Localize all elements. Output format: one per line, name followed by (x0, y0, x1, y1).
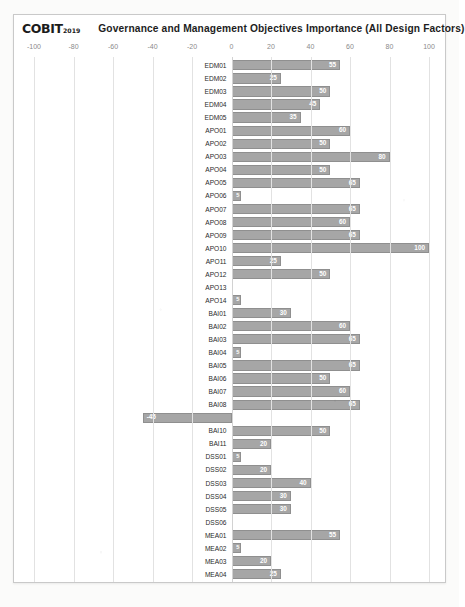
gridline (311, 57, 312, 582)
bar-category-label: EDM02 (14, 72, 232, 85)
bar: 25 (232, 73, 281, 83)
bar: 20 (232, 556, 272, 566)
bar-value-label: 30 (280, 506, 290, 512)
bar-row: APO0965 (14, 229, 445, 242)
bar-category-label: BAI02 (14, 320, 232, 333)
bar-row: BAI0760 (14, 385, 445, 398)
bar-category-label: EDM03 (14, 85, 232, 98)
bar-category-label: APO05 (14, 176, 232, 189)
gridline (153, 57, 154, 582)
gridline (34, 57, 35, 582)
gridline (74, 57, 75, 582)
bar-value-label: 5 (235, 545, 240, 551)
bar-category-label: MEA02 (14, 542, 232, 555)
bar-category-label: BAI07 (14, 385, 232, 398)
gridline (350, 57, 351, 582)
bar-value-label: 60 (339, 388, 349, 394)
bar-category-label: APO08 (14, 216, 232, 229)
bar: 55 (232, 530, 341, 540)
bar-row: DSS0530 (14, 503, 445, 516)
bar: 20 (232, 439, 272, 449)
bar-row: BAI045 (14, 346, 445, 359)
x-tick-label: -60 (108, 43, 118, 50)
bar-value-label: 80 (378, 154, 388, 160)
bar-category-label: APO12 (14, 268, 232, 281)
x-tick-label: 0 (230, 43, 234, 50)
bar: 50 (232, 426, 331, 436)
bar-category-label: BAI03 (14, 333, 232, 346)
x-tick-label: -100 (27, 43, 41, 50)
bar-value-label: 50 (319, 428, 329, 434)
bar-category-label: DSS01 (14, 450, 232, 463)
bar-row: BAI1050 (14, 424, 445, 437)
bar: 60 (232, 321, 351, 331)
gridline (429, 57, 430, 582)
bar-value-label: 60 (339, 219, 349, 225)
bar: 65 (232, 334, 360, 344)
bar: 60 (232, 126, 351, 136)
bar: 60 (232, 386, 351, 396)
x-tick-label: -80 (68, 43, 78, 50)
bar-row: APO1125 (14, 255, 445, 268)
bar: 55 (232, 60, 341, 70)
bar-value-label: 20 (260, 558, 270, 564)
bar-row: APO0250 (14, 137, 445, 150)
bar-row: DSS0220 (14, 463, 445, 476)
bar-row: DSS060 (14, 516, 445, 529)
bar-category-label: MEA03 (14, 555, 232, 568)
bar-row: BAI1120 (14, 437, 445, 450)
chart-header: COBIT 2019 Governance and Management Obj… (14, 15, 445, 41)
bar-row: EDM0350 (14, 85, 445, 98)
bar-category-label: APO01 (14, 124, 232, 137)
bar: 5 (232, 452, 242, 462)
bar: 5 (232, 543, 242, 553)
bar-row: APO065 (14, 189, 445, 202)
bar-value-label: -45 (144, 414, 156, 420)
page-title: Governance and Management Objectives Imp… (98, 23, 464, 34)
bar-value-label: 50 (319, 88, 329, 94)
bar-row: EDM0535 (14, 111, 445, 124)
bar-category-label: DSS04 (14, 490, 232, 503)
bar: 65 (232, 360, 360, 370)
bar-row: BAI0565 (14, 359, 445, 372)
bar-value-label: 100 (414, 245, 428, 251)
bar-category-label: BAI11 (14, 437, 232, 450)
bar-row: MEA025 (14, 542, 445, 555)
cobit-logo: COBIT 2019 (22, 21, 80, 36)
bar-category-label: APO13 (14, 281, 232, 294)
x-tick-label: 40 (307, 43, 315, 50)
x-tick-label: -40 (147, 43, 157, 50)
bar-row: MEA0425 (14, 568, 445, 581)
bar-row: BAI09-45 (14, 411, 445, 424)
bar-value-label: 60 (339, 323, 349, 329)
bar: 50 (232, 269, 331, 279)
bar-value-label: 5 (235, 350, 240, 356)
bar-value-label: 30 (280, 493, 290, 499)
bar-category-label: APO09 (14, 229, 232, 242)
bar: 30 (232, 491, 291, 501)
bar-value-label: 5 (235, 193, 240, 199)
bar-category-label: APO07 (14, 203, 232, 216)
bar-category-label: APO06 (14, 189, 232, 202)
bar-value-label: 55 (329, 532, 339, 538)
bar-value-label: 50 (319, 375, 329, 381)
bar-value-label: 20 (260, 441, 270, 447)
bar-category-label: APO04 (14, 163, 232, 176)
bar-row: APO0380 (14, 150, 445, 163)
x-axis-tick-labels: -100-80-60-40-20020406080100 (14, 43, 445, 57)
bar-category-label: DSS05 (14, 503, 232, 516)
bar: 5 (232, 347, 242, 357)
cobit-logo-text: COBIT (22, 21, 63, 36)
bar-row: BAI0130 (14, 307, 445, 320)
bar-rows: EDM0155EDM0225EDM0350EDM0445EDM0535APO01… (14, 59, 445, 581)
bar-value-label: 50 (319, 271, 329, 277)
bar: 100 (232, 243, 430, 253)
bar-category-label: APO10 (14, 242, 232, 255)
plot-area: EDM0155EDM0225EDM0350EDM0445EDM0535APO01… (14, 57, 445, 582)
bar-row: APO0450 (14, 163, 445, 176)
bar-category-label: EDM01 (14, 59, 232, 72)
cobit-logo-year: 2019 (63, 27, 80, 34)
bar: 50 (232, 139, 331, 149)
bar-category-label: EDM04 (14, 98, 232, 111)
bar-category-label: BAI10 (14, 424, 232, 437)
